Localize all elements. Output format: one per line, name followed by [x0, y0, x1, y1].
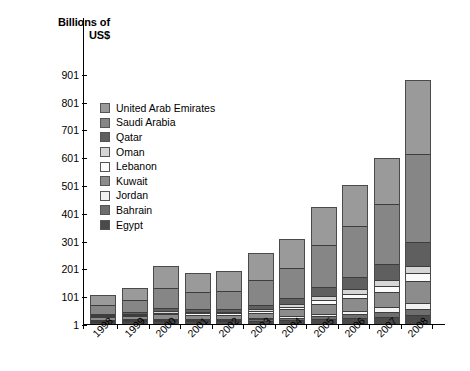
x-tick — [338, 325, 339, 329]
stacked-bar — [311, 207, 337, 324]
bar-segment — [91, 296, 115, 305]
bar-segment — [406, 274, 430, 282]
x-tick — [117, 325, 118, 329]
legend-item-label: Bahrain — [116, 205, 152, 216]
y-tick-label: 901 — [35, 70, 79, 80]
bar-segment — [123, 301, 147, 312]
legend-swatch-icon — [100, 205, 110, 215]
bar-segment — [375, 293, 399, 308]
legend-swatch-icon — [100, 118, 110, 128]
legend-item-label: Kuwait — [116, 176, 148, 187]
bar-segment — [249, 281, 273, 305]
stacked-bar — [185, 273, 211, 324]
legend-item-label: Egypt — [116, 220, 143, 231]
y-tick-label: 501 — [35, 181, 79, 191]
stacked-bar — [153, 266, 179, 324]
x-tick — [275, 325, 276, 329]
y-tick — [82, 75, 87, 76]
y-tick — [82, 269, 87, 270]
legend-item-label: Oman — [116, 147, 145, 158]
legend-item-label: Qatar — [116, 132, 142, 143]
y-tick-label: 201 — [35, 264, 79, 274]
bar-segment — [343, 299, 367, 312]
bar-segment — [123, 289, 147, 302]
y-tick — [82, 242, 87, 243]
x-tick — [149, 325, 150, 329]
legend-item[interactable]: Qatar — [100, 130, 215, 145]
bar-segment — [312, 305, 336, 315]
legend-item[interactable]: Egypt — [100, 218, 215, 233]
y-tick — [82, 297, 87, 298]
legend-item[interactable]: Lebanon — [100, 159, 215, 174]
x-tick — [401, 325, 402, 329]
legend-swatch-icon — [100, 103, 110, 113]
bar-segment — [406, 155, 430, 243]
bar-segment — [406, 81, 430, 156]
legend-item-label: Saudi Arabia — [116, 117, 176, 128]
bar-segment — [343, 186, 367, 227]
bar-segment — [217, 292, 241, 310]
legend-item[interactable]: Oman — [100, 145, 215, 160]
legend-item[interactable]: United Arab Emirates — [100, 101, 215, 116]
legend-item-label: Jordan — [116, 190, 148, 201]
legend-swatch-icon — [100, 191, 110, 201]
bar-segment — [186, 274, 210, 293]
y-tick — [82, 130, 87, 131]
x-tick-origin — [83, 325, 84, 329]
legend-swatch-icon — [100, 176, 110, 186]
x-tick — [369, 325, 370, 329]
x-tick — [212, 325, 213, 329]
bar-segment — [249, 254, 273, 281]
stacked-bar — [405, 80, 431, 324]
x-tick — [432, 325, 433, 329]
bar-segment — [154, 267, 178, 290]
bar-segment — [343, 227, 367, 278]
y-tick-label: 101 — [35, 292, 79, 302]
legend-item-label: Lebanon — [116, 161, 157, 172]
stacked-bar — [279, 239, 305, 324]
legend-swatch-icon — [100, 132, 110, 142]
y-tick — [82, 214, 87, 215]
legend: United Arab EmiratesSaudi ArabiaQatarOma… — [100, 101, 215, 232]
bar-segment — [375, 265, 399, 281]
stacked-bar — [342, 185, 368, 324]
legend-item[interactable]: Bahrain — [100, 203, 215, 218]
bar-segment — [217, 272, 241, 291]
legend-swatch-icon — [100, 147, 110, 157]
bar-segment — [406, 282, 430, 304]
bar-segment — [375, 205, 399, 265]
bar-segment — [312, 246, 336, 288]
y-tick-label: 801 — [35, 98, 79, 108]
y-tick — [82, 158, 87, 159]
legend-swatch-icon — [100, 220, 110, 230]
legend-swatch-icon — [100, 162, 110, 172]
bar-segment — [91, 306, 115, 315]
y-tick — [82, 103, 87, 104]
y-tick-label: 301 — [35, 237, 79, 247]
bar-segment — [343, 278, 367, 290]
stacked-bar — [248, 253, 274, 324]
legend-item[interactable]: Saudi Arabia — [100, 116, 215, 131]
bar-segment — [280, 240, 304, 270]
y-tick-label: 601 — [35, 153, 79, 163]
bar-segment — [186, 293, 210, 310]
bar-segment — [406, 267, 430, 275]
legend-item[interactable]: Jordan — [100, 189, 215, 204]
bar-segment — [154, 289, 178, 308]
legend-item-label: United Arab Emirates — [116, 103, 215, 114]
x-tick — [306, 325, 307, 329]
x-tick — [180, 325, 181, 329]
bar-segment — [312, 288, 336, 297]
bar-segment — [312, 208, 336, 247]
y-tick-label: 701 — [35, 125, 79, 135]
chart-root: Billions of US$ 110120130140150160170180… — [0, 0, 470, 371]
bar-segment — [280, 269, 304, 299]
bar-segment — [406, 243, 430, 267]
y-tick — [82, 186, 87, 187]
bar-segment — [375, 159, 399, 205]
stacked-bar — [374, 158, 400, 324]
legend-item[interactable]: Kuwait — [100, 174, 215, 189]
y-tick-label: 1 — [35, 320, 79, 330]
x-tick — [243, 325, 244, 329]
y-tick-label: 401 — [35, 209, 79, 219]
